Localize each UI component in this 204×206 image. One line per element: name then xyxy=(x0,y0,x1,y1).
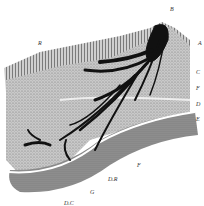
label-E: E xyxy=(196,116,200,122)
label-D: D xyxy=(196,101,200,107)
label-G: G xyxy=(90,189,94,195)
histology-figure: B R A C F D E F D.R G D.C xyxy=(0,0,204,206)
label-C: C xyxy=(196,69,200,75)
label-F-upper: F xyxy=(196,85,200,91)
label-DR: D.R xyxy=(108,176,118,182)
label-B: B xyxy=(170,6,174,12)
label-F: F xyxy=(137,162,141,168)
label-R: R xyxy=(38,40,42,46)
label-DC: D.C xyxy=(64,200,74,206)
section-drawing xyxy=(0,0,204,206)
label-A: A xyxy=(198,40,202,46)
